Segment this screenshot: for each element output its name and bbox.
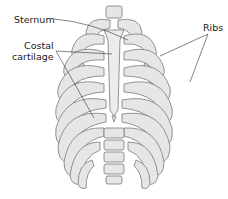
costal-label-line2: cartilage xyxy=(12,51,54,62)
costal-label-line1: Costal xyxy=(12,40,54,51)
costal-cartilage-label: Costal cartilage xyxy=(12,40,54,62)
ribs-label: Ribs xyxy=(203,22,223,33)
rib-cage-diagram: Sternum Costal cartilage Ribs xyxy=(0,0,228,199)
sternum-label: Sternum xyxy=(14,14,55,25)
rib-cage-illustration xyxy=(0,0,228,199)
